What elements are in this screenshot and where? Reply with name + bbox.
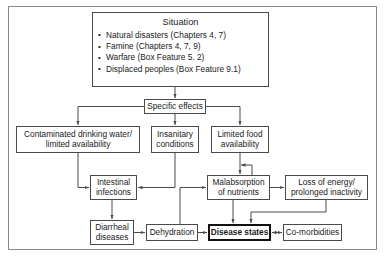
node-co-morbidities: Co-morbidities	[283, 224, 342, 241]
flowchart-figure: Situation Natural disasters (Chapters 4,…	[0, 0, 385, 258]
node-label-line2: conditions	[156, 140, 193, 150]
node-intestinal-infections: Intestinal infections	[90, 175, 137, 200]
node-label: Specific effects	[147, 102, 203, 112]
node-label-line2: prolonged inactivity	[291, 188, 362, 198]
list-item: Warfare (Box Feature 5. 2)	[98, 53, 273, 63]
node-label: Dehydration	[150, 228, 195, 238]
node-label-line2: infections	[96, 188, 131, 198]
node-limited-food-availability: Limited food availability	[211, 126, 269, 153]
node-specific-effects: Specific effects	[144, 99, 206, 114]
node-label-line2: availability	[221, 140, 259, 150]
node-dehydration: Dehydration	[146, 224, 198, 241]
node-label: Disease states	[211, 228, 269, 238]
node-label-line2: of nutrients	[218, 188, 259, 198]
node-malabsorption-of-nutrients: Malabsorption of nutrients	[207, 175, 270, 200]
situation-list: Natural disasters (Chapters 4, 7) Famine…	[88, 31, 273, 76]
node-contaminated-water: Contaminated drinking water/ limited ava…	[16, 126, 140, 153]
node-label-line2: diseases	[96, 233, 129, 243]
node-disease-states: Disease states	[208, 224, 271, 241]
situation-title: Situation	[93, 17, 268, 28]
node-label: Co-morbidities	[286, 228, 339, 238]
list-item: Displaced peoples (Box Feature 9.1)	[98, 65, 273, 75]
list-item: Natural disasters (Chapters 4, 7)	[98, 31, 273, 41]
node-diarrheal-diseases: Diarrheal diseases	[90, 220, 134, 245]
list-item: Famine (Chapters 4, 7, 9)	[98, 42, 273, 52]
node-label-line2: limited availability	[46, 140, 111, 150]
node-insanitary-conditions: Insanitary conditions	[151, 126, 199, 153]
node-situation: Situation Natural disasters (Chapters 4,…	[92, 12, 269, 87]
node-loss-of-energy: Loss of energy/ prolonged inactivity	[285, 175, 368, 200]
